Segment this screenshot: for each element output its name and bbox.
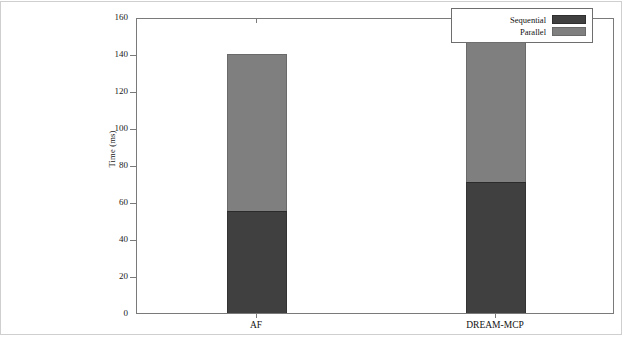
bar-group[interactable]	[227, 54, 287, 313]
figure-canvas: Time (ms) 020406080100120140160 AFDREAM-…	[0, 0, 624, 337]
legend: Sequential Parallel	[451, 8, 593, 43]
plot-area	[136, 18, 614, 314]
y-axis-tick-label: 100	[28, 124, 128, 133]
legend-label-sequential: Sequential	[510, 15, 546, 25]
y-axis-tick-label: 20	[28, 272, 128, 281]
legend-swatch-sequential	[552, 15, 586, 24]
x-axis-tick	[256, 314, 257, 318]
y-axis-tick	[130, 314, 137, 315]
y-axis-tick-label: 60	[28, 198, 128, 207]
bars-layer	[137, 19, 613, 313]
bar-segment-parallel[interactable]	[227, 54, 287, 211]
y-axis-tick-label: 160	[28, 13, 128, 22]
x-axis-tick	[495, 314, 496, 318]
x-axis-tick-top	[256, 19, 257, 23]
y-axis-tick-label: 80	[28, 161, 128, 170]
bar-segment-sequential[interactable]	[466, 182, 526, 313]
x-axis-tick-label: AF	[186, 320, 326, 331]
legend-item: Parallel	[458, 26, 586, 37]
x-axis-tick-label: DREAM-MCP	[425, 320, 565, 331]
y-axis-tick-label: 0	[28, 309, 128, 318]
legend-item: Sequential	[458, 14, 586, 25]
bar-segment-parallel[interactable]	[466, 27, 526, 182]
y-axis-tick-label: 140	[28, 50, 128, 59]
y-axis-tick-label: 120	[28, 87, 128, 96]
legend-label-parallel: Parallel	[520, 27, 546, 37]
y-axis-tick-label: 40	[28, 235, 128, 244]
legend-swatch-parallel	[552, 27, 586, 36]
bar-group[interactable]	[466, 27, 526, 313]
bar-segment-sequential[interactable]	[227, 211, 287, 313]
